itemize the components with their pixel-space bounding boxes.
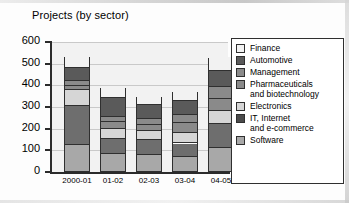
bar-segment[interactable] (101, 139, 125, 155)
legend-item[interactable]: IT, Internetand e-commerce (236, 113, 340, 133)
scan-artifact-right (345, 0, 349, 203)
scan-artifact-bottom (0, 200, 349, 203)
legend-label: Software (250, 135, 284, 145)
bar-segment[interactable] (173, 115, 197, 124)
bar-segment[interactable] (209, 71, 233, 87)
y-tick (45, 106, 50, 108)
legend-label: Management (250, 67, 300, 77)
bar-segment[interactable] (65, 56, 89, 69)
bar-segment[interactable] (101, 117, 125, 122)
legend-label: Pharmaceuticalsand biotechnology (250, 79, 319, 99)
legend-label: IT, Internetand e-commerce (250, 113, 314, 133)
bar-segment[interactable] (209, 111, 233, 124)
legend-item[interactable]: Finance (236, 43, 340, 53)
legend-swatch-icon (236, 136, 245, 145)
legend-label: Finance (250, 43, 280, 53)
y-axis-line (50, 41, 52, 173)
legend-label-line2: and biotechnology (250, 89, 319, 99)
stacked-bar[interactable] (136, 97, 162, 172)
y-tick-label: 500 (6, 56, 40, 68)
y-tick (45, 63, 50, 65)
bar-segment[interactable] (101, 154, 125, 171)
legend-swatch-icon (236, 114, 245, 123)
y-tick-label: 200 (6, 121, 40, 133)
bar-segment[interactable] (101, 129, 125, 139)
bar-segment[interactable] (173, 133, 197, 143)
chart-title: Projects (by sector) (32, 9, 129, 21)
bar-segment[interactable] (65, 81, 89, 85)
legend-label: Electronics (250, 101, 292, 111)
y-tick-label: 400 (6, 77, 40, 89)
bar-segment[interactable] (101, 98, 125, 117)
legend-item[interactable]: Management (236, 67, 340, 77)
bar-segment[interactable] (137, 155, 161, 171)
legend-swatch-icon (236, 56, 245, 65)
legend-item[interactable]: Automotive (236, 55, 340, 65)
bar-segment[interactable] (65, 106, 89, 145)
legend-label: Automotive (250, 55, 293, 65)
bar-segment[interactable] (137, 119, 161, 125)
x-axis-line (50, 172, 230, 174)
bar-segment[interactable] (137, 125, 161, 131)
legend-swatch-icon (236, 80, 245, 89)
legend-item[interactable]: Electronics (236, 101, 340, 111)
chart-page: Projects (by sector) 0100200300400500600… (0, 0, 349, 203)
y-tick (45, 41, 50, 43)
bar-segment[interactable] (65, 86, 89, 90)
bar-segment[interactable] (209, 57, 233, 71)
bar-segment[interactable] (173, 157, 197, 171)
stacked-bar[interactable] (64, 57, 90, 172)
bar-segment[interactable] (209, 124, 233, 148)
bar-segment[interactable] (209, 99, 233, 112)
bar-segment[interactable] (137, 131, 161, 140)
y-tick (45, 128, 50, 130)
bar-segment[interactable] (173, 123, 197, 133)
legend-swatch-icon (236, 102, 245, 111)
y-tick-label: 100 (6, 142, 40, 154)
legend-swatch-icon (236, 68, 245, 77)
y-tick (45, 149, 50, 151)
legend-label-line2: and e-commerce (250, 123, 314, 133)
bar-segment[interactable] (101, 122, 125, 129)
bar-segment[interactable] (173, 91, 197, 101)
bar-segment[interactable] (209, 148, 233, 171)
y-tick (45, 84, 50, 86)
y-tick (45, 171, 50, 173)
bar-segment[interactable] (65, 90, 89, 107)
scan-artifact-top (0, 0, 349, 3)
y-tick-label: 300 (6, 99, 40, 111)
bar-segment[interactable] (137, 105, 161, 119)
bar-segment[interactable] (65, 68, 89, 81)
legend-item[interactable]: Software (236, 135, 340, 145)
gridline (50, 42, 228, 43)
bar-segment[interactable] (173, 144, 197, 157)
stacked-bar[interactable] (172, 92, 198, 172)
bar-segment[interactable] (137, 140, 161, 155)
bar-segment[interactable] (65, 145, 89, 171)
plot-area (50, 42, 228, 172)
y-tick-label: 0 (6, 164, 40, 176)
bar-segment[interactable] (137, 96, 161, 105)
bar-segment[interactable] (209, 87, 233, 99)
bar-segment[interactable] (101, 87, 125, 98)
chart-legend: FinanceAutomotiveManagementPharmaceutica… (231, 38, 344, 184)
stacked-bar[interactable] (100, 88, 126, 172)
y-tick-label: 600 (6, 34, 40, 46)
legend-swatch-icon (236, 44, 245, 53)
bar-segment[interactable] (173, 101, 197, 114)
legend-item[interactable]: Pharmaceuticalsand biotechnology (236, 79, 340, 99)
